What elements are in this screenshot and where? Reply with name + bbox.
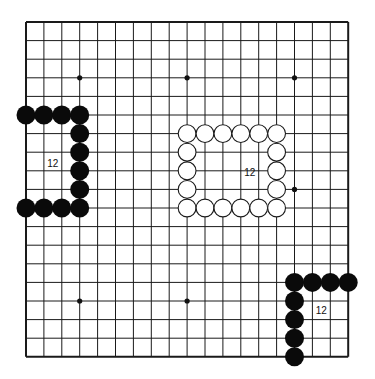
black-stone-icon <box>34 199 53 218</box>
black-stone-icon <box>34 106 53 125</box>
white-stone-icon <box>178 125 196 143</box>
black-stone-icon <box>70 161 89 180</box>
white-stone-icon <box>196 125 214 143</box>
white-stone-icon <box>178 199 196 217</box>
star-point-icon <box>77 298 82 303</box>
black-stone-icon <box>285 310 304 329</box>
white-stone-icon <box>268 162 286 180</box>
white-stone-icon <box>214 199 232 217</box>
black-stone-icon <box>52 199 71 218</box>
white-stone-icon <box>214 125 232 143</box>
white-stone-icon <box>178 181 196 199</box>
star-point-icon <box>185 75 190 80</box>
move-number-label: 12 <box>244 167 256 178</box>
white-stone-icon <box>250 125 268 143</box>
white-stone-icon <box>268 181 286 199</box>
move-number-label: 12 <box>47 158 59 169</box>
white-stone-icon <box>268 199 286 217</box>
black-stone-icon <box>339 273 358 292</box>
white-stone-icon <box>250 199 268 217</box>
black-stone-icon <box>285 292 304 311</box>
black-stone-icon <box>70 143 89 162</box>
black-stone-icon <box>285 347 304 366</box>
black-stone-icon <box>17 199 36 218</box>
star-point-icon <box>292 75 297 80</box>
black-stone-icon <box>70 180 89 199</box>
black-stone-icon <box>70 199 89 218</box>
star-point-icon <box>292 187 297 192</box>
black-stone-icon <box>70 106 89 125</box>
black-stone-icon <box>52 106 71 125</box>
star-point-icon <box>77 75 82 80</box>
black-stone-icon <box>285 273 304 292</box>
white-stone-icon <box>268 143 286 161</box>
black-stone-icon <box>321 273 340 292</box>
black-stone-icon <box>285 329 304 348</box>
go-board: 121212 <box>0 0 375 379</box>
white-stone-icon <box>268 125 286 143</box>
white-stone-icon <box>232 199 250 217</box>
black-stone-icon <box>70 124 89 143</box>
black-stone-icon <box>17 106 36 125</box>
star-point-icon <box>185 298 190 303</box>
white-stone-icon <box>178 162 196 180</box>
black-stone-icon <box>303 273 322 292</box>
white-stone-icon <box>232 125 250 143</box>
white-stone-icon <box>196 199 214 217</box>
white-stone-icon <box>178 143 196 161</box>
move-number-label: 12 <box>316 305 328 316</box>
